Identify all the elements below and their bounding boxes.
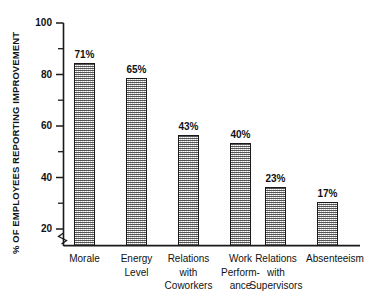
bar-value-morale: 71%	[60, 49, 109, 60]
axis-break-icon	[59, 233, 67, 244]
bar-absenteeism	[317, 202, 338, 246]
bar-value-relations-with-coworkers: 43%	[164, 121, 213, 132]
category-label-energy-level: Energy Level	[112, 252, 161, 279]
y-tick-label-20: 20	[26, 224, 52, 234]
bar-work-performance	[230, 143, 251, 246]
y-tick-label-40: 40	[26, 173, 52, 183]
category-label-absenteeism: Absenteeism	[300, 252, 370, 266]
bar-energy-level	[126, 78, 147, 246]
bar-relations-with-coworkers	[178, 135, 199, 246]
category-label-relations-with-coworkers: Relations with Coworkers	[160, 252, 217, 293]
category-label-morale: Morale	[60, 252, 109, 266]
bar-value-absenteeism: 17%	[303, 188, 352, 199]
category-label-relations-with-supervisors: Relations with Supervisors	[246, 252, 306, 293]
bar-value-relations-with-supervisors: 23%	[251, 173, 300, 184]
bar-value-energy-level: 65%	[112, 64, 161, 75]
bar-value-work-performance: 40%	[216, 129, 265, 140]
bar-relations-with-supervisors	[265, 187, 286, 246]
y-tick-label-100: 100	[26, 18, 52, 28]
y-tick-label-60: 60	[26, 121, 52, 131]
bar-chart: % OF EMPLOYEES REPORTING IMPROVEMENT 100…	[0, 0, 372, 302]
y-tick-label-80: 80	[26, 70, 52, 80]
bar-morale	[74, 63, 95, 246]
